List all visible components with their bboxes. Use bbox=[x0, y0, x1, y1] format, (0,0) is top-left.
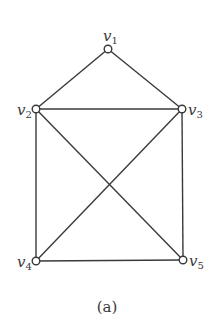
vertex-label-v5: v5 bbox=[189, 252, 204, 271]
edge-v1-v3 bbox=[108, 49, 182, 109]
vertex-label-v4: v4 bbox=[17, 253, 32, 272]
edge-v1-v2 bbox=[36, 49, 108, 109]
node-labels: v1v2v3v4v5 bbox=[17, 27, 204, 272]
vertex-label-v3: v3 bbox=[188, 101, 203, 120]
vertex-label-v1: v1 bbox=[103, 27, 118, 46]
nodes bbox=[32, 45, 187, 265]
edge-v3-v5 bbox=[182, 109, 183, 260]
vertex-v3 bbox=[178, 105, 186, 113]
edges bbox=[36, 49, 183, 261]
vertex-label-v2: v2 bbox=[17, 101, 32, 120]
edge-v4-v5 bbox=[36, 260, 183, 261]
vertex-v5 bbox=[179, 256, 187, 264]
vertex-v1 bbox=[104, 45, 112, 53]
figure-caption: (a) bbox=[97, 298, 118, 316]
vertex-v2 bbox=[32, 105, 40, 113]
vertex-v4 bbox=[32, 257, 40, 265]
graph-diagram: v1v2v3v4v5 (a) bbox=[0, 0, 214, 324]
